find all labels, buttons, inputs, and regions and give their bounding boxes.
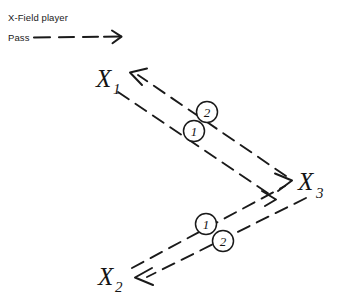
player-x3-subscript: 3 (315, 185, 324, 201)
player-x2-letter: X (97, 263, 115, 290)
sequence-marker-value: 2 (220, 234, 227, 249)
sequence-marker-value: 1 (191, 124, 198, 139)
legend: X-Field player Pass (8, 12, 122, 43)
sequence-marker-value: 1 (203, 217, 210, 232)
legend-field-player-text: X-Field player (8, 12, 68, 23)
diagram-canvas: X-Field player Pass (0, 0, 338, 295)
player-x1-subscript: 1 (113, 81, 121, 97)
player-label-x2: X 2 (97, 263, 123, 295)
sequence-marker-value: 2 (204, 105, 211, 120)
player-x1-letter: X (95, 65, 113, 92)
sequence-marker-lower-1: 1 (196, 214, 217, 235)
sequence-marker-upper-1: 1 (184, 121, 205, 142)
legend-dashed-arrow-icon (34, 31, 122, 44)
player-label-x3: X 3 (297, 168, 324, 201)
sequence-marker-upper-2: 2 (197, 102, 218, 123)
player-label-x1: X 1 (95, 65, 121, 97)
player-x3-letter: X (297, 168, 315, 195)
sequence-marker-lower-2: 2 (213, 231, 234, 252)
play-diagram: X-Field player Pass (0, 0, 338, 295)
legend-pass-text: Pass (8, 32, 30, 43)
player-x2-subscript: 2 (115, 279, 123, 295)
